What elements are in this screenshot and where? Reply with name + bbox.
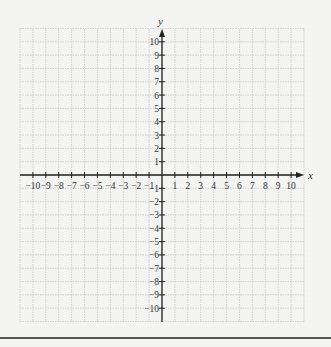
svg-text:7: 7 (250, 181, 255, 191)
svg-text:−7: −7 (149, 264, 159, 274)
svg-text:4: 4 (154, 117, 159, 127)
svg-text:10: 10 (286, 181, 296, 191)
svg-text:3: 3 (154, 131, 159, 141)
svg-text:−8: −8 (149, 277, 159, 287)
svg-text:−2: −2 (149, 197, 159, 207)
svg-text:1: 1 (154, 157, 159, 167)
axes (20, 29, 304, 322)
svg-text:8: 8 (154, 64, 159, 74)
svg-text:9: 9 (154, 51, 159, 61)
svg-text:−2: −2 (131, 181, 141, 191)
svg-text:5: 5 (224, 181, 229, 191)
svg-text:6: 6 (154, 91, 159, 101)
x-axis-label: x (307, 169, 313, 181)
bottom-divider (0, 337, 331, 339)
svg-text:−6: −6 (149, 250, 159, 260)
svg-text:−10: −10 (25, 181, 40, 191)
coordinate-plane: −10−9−8−7−6−5−4−3−2−11234567891010987654… (0, 0, 331, 347)
svg-text:−5: −5 (149, 237, 159, 247)
svg-text:10: 10 (150, 37, 160, 47)
svg-text:9: 9 (276, 181, 281, 191)
svg-text:−3: −3 (149, 210, 159, 220)
svg-text:5: 5 (154, 104, 159, 114)
svg-text:−1: −1 (149, 184, 159, 194)
svg-text:8: 8 (263, 181, 268, 191)
svg-text:−4: −4 (149, 224, 159, 234)
svg-text:−6: −6 (79, 181, 89, 191)
svg-text:−8: −8 (54, 181, 64, 191)
svg-text:6: 6 (237, 181, 242, 191)
svg-text:−7: −7 (67, 181, 77, 191)
svg-text:−5: −5 (92, 181, 102, 191)
svg-text:−3: −3 (118, 181, 128, 191)
svg-text:7: 7 (154, 77, 159, 87)
svg-text:2: 2 (154, 144, 159, 154)
svg-text:1: 1 (173, 181, 178, 191)
x-axis-arrow-icon (296, 172, 304, 178)
y-axis-arrow-icon (159, 29, 165, 37)
svg-text:3: 3 (198, 181, 203, 191)
svg-text:−9: −9 (149, 290, 159, 300)
svg-text:−4: −4 (105, 181, 115, 191)
svg-text:2: 2 (185, 181, 190, 191)
svg-text:−9: −9 (41, 181, 51, 191)
y-axis-label: y (157, 15, 163, 27)
svg-text:−10: −10 (144, 304, 159, 314)
svg-text:4: 4 (211, 181, 216, 191)
